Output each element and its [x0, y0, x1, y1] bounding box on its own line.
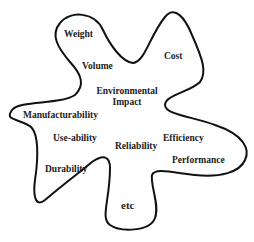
label-use-ability: Use-ability [53, 133, 97, 144]
label-durability: Durability [45, 164, 87, 175]
label-manufacturability: Manufacturability [23, 110, 98, 121]
label-performance: Performance [172, 155, 225, 166]
label-efficiency: Efficiency [163, 133, 204, 144]
design-criteria-diagram: Weight Cost Volume Environmental Impact … [0, 0, 254, 242]
label-environmental-impact-line2: Impact [93, 97, 161, 108]
label-weight: Weight [64, 29, 93, 40]
label-environmental-impact-line1: Environmental [93, 86, 161, 97]
label-volume: Volume [82, 61, 113, 72]
label-environmental-impact: Environmental Impact [93, 86, 161, 108]
label-etc: etc [121, 200, 134, 211]
label-reliability: Reliability [115, 141, 157, 152]
label-cost: Cost [164, 51, 182, 62]
